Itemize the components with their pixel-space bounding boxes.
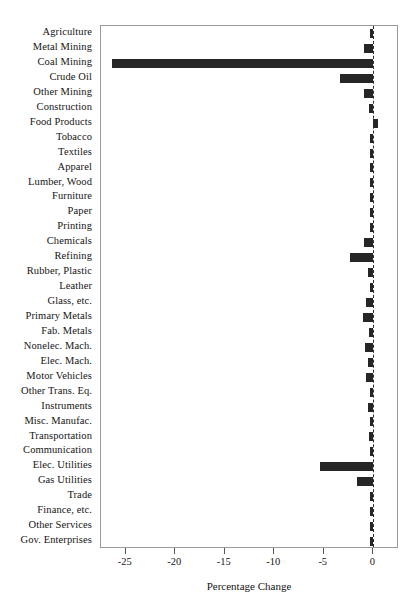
category-label: Apparel [0, 162, 92, 173]
category-label: Transportation [0, 431, 92, 442]
bar [320, 462, 373, 471]
category-label: Coal Mining [0, 57, 92, 68]
category-label: Other Services [0, 520, 92, 531]
category-label: Other Mining [0, 87, 92, 98]
category-label: Textiles [0, 147, 92, 158]
x-axis-tick-label: -25 [118, 556, 132, 568]
bars-container [101, 26, 397, 547]
category-label: Refining [0, 251, 92, 262]
bar [357, 477, 373, 486]
category-label: Communication [0, 445, 92, 456]
category-label: Rubber, Plastic [0, 266, 92, 277]
x-axis-tick-label: 0 [370, 556, 375, 568]
category-label: Nonelec. Mach. [0, 341, 92, 352]
x-axis: -25-20-15-10-50 [100, 548, 398, 549]
category-label: Furniture [0, 191, 92, 202]
bar [364, 238, 373, 247]
plot-area [100, 25, 398, 548]
category-label: Primary Metals [0, 311, 92, 322]
x-axis-tick [224, 548, 225, 554]
x-axis-tick-label: -15 [217, 556, 231, 568]
x-axis-tick [372, 548, 373, 554]
category-label: Finance, etc. [0, 505, 92, 516]
category-label: Chemicals [0, 236, 92, 247]
category-label: Glass, etc. [0, 296, 92, 307]
bar [364, 44, 373, 53]
category-label: Elec. Mach. [0, 356, 92, 367]
x-axis-tick [125, 548, 126, 554]
category-label: Trade [0, 490, 92, 501]
category-label: Fab. Metals [0, 326, 92, 337]
x-axis-tick-label: -5 [318, 556, 327, 568]
bar [365, 343, 373, 352]
category-axis-labels: AgricultureMetal MiningCoal MiningCrude … [0, 25, 92, 548]
x-axis-title: Percentage Change [100, 580, 398, 592]
x-axis-tick [323, 548, 324, 554]
x-axis-tick [174, 548, 175, 554]
category-label: Elec. Utilities [0, 460, 92, 471]
bar [364, 89, 373, 98]
category-label: Gas Utilities [0, 475, 92, 486]
zero-reference-line [373, 26, 374, 547]
category-label: Agriculture [0, 27, 92, 38]
category-label: Food Products [0, 117, 92, 128]
bar [340, 74, 374, 83]
category-label: Metal Mining [0, 42, 92, 53]
category-label: Gov. Enterprises [0, 535, 92, 546]
x-axis-tick [273, 548, 274, 554]
category-label: Instruments [0, 401, 92, 412]
bar [112, 59, 373, 68]
x-axis-tick-label: -20 [167, 556, 181, 568]
category-label: Tobacco [0, 132, 92, 143]
category-label: Construction [0, 102, 92, 113]
x-axis-tick-label: -10 [266, 556, 280, 568]
bar [363, 313, 373, 322]
category-label: Printing [0, 221, 92, 232]
category-label: Other Trans. Eq. [0, 386, 92, 397]
bar [366, 298, 373, 307]
category-label: Crude Oil [0, 72, 92, 83]
category-label: Motor Vehicles [0, 371, 92, 382]
percentage-change-bar-chart: AgricultureMetal MiningCoal MiningCrude … [0, 0, 420, 604]
category-label: Paper [0, 206, 92, 217]
category-label: Lumber, Wood [0, 177, 92, 188]
bar [366, 373, 373, 382]
bar [350, 253, 373, 262]
category-label: Misc. Manufac. [0, 416, 92, 427]
category-label: Leather [0, 281, 92, 292]
